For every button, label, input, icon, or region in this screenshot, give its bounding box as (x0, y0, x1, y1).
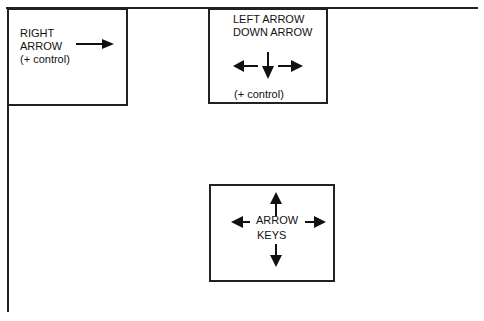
up-arrow-icon (270, 192, 282, 216)
left-arrow-label: LEFT ARROW (233, 13, 304, 26)
right-arrow-label-1: RIGHT (20, 27, 54, 40)
down-arrow-icon (262, 52, 274, 80)
arrow-keys-label-2: KEYS (257, 229, 286, 242)
arrow-keys-label-1: ARROW (256, 214, 298, 227)
right-arrow-icon (305, 216, 327, 228)
right-arrow-icon (76, 38, 116, 50)
control-modifier-note: (+ control) (234, 88, 284, 101)
left-arrow-icon (231, 216, 251, 228)
right-arrow-label-3: (+ control) (20, 53, 70, 66)
down-arrow-icon (270, 244, 282, 268)
right-arrow-icon (278, 60, 304, 72)
right-arrow-label-2: ARROW (20, 40, 62, 53)
left-arrow-icon (233, 60, 258, 72)
down-arrow-label: DOWN ARROW (233, 26, 312, 39)
